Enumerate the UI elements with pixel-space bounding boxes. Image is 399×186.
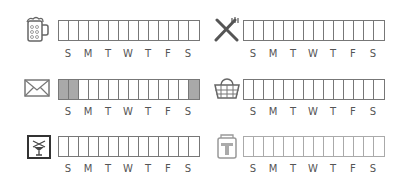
tracker-cell[interactable]	[284, 80, 294, 99]
tracker-cell[interactable]	[59, 21, 69, 40]
tracker-cell[interactable]	[119, 21, 129, 40]
tracker-cell[interactable]	[139, 21, 149, 40]
tracker-grid-beer[interactable]	[58, 20, 200, 41]
tracker-cell[interactable]	[119, 137, 129, 156]
tracker-grid-transit[interactable]	[243, 136, 385, 157]
tracker-cell[interactable]	[284, 137, 294, 156]
tracker-cell[interactable]	[344, 80, 354, 99]
tracker-cell[interactable]	[189, 80, 199, 99]
day-labels-beer: SMTWTFS	[58, 48, 198, 59]
tracker-cell[interactable]	[129, 137, 139, 156]
day-label: S	[243, 48, 263, 59]
tracker-cell[interactable]	[149, 137, 159, 156]
tracker-grid-mail[interactable]	[58, 79, 200, 100]
tracker-cell[interactable]	[69, 80, 79, 99]
tracker-cell[interactable]	[304, 80, 314, 99]
tracker-cell[interactable]	[179, 137, 189, 156]
tracker-cell[interactable]	[294, 21, 304, 40]
tracker-cell[interactable]	[59, 80, 69, 99]
tracker-cell[interactable]	[69, 21, 79, 40]
tracker-cell[interactable]	[109, 21, 119, 40]
tracker-grid-shopping[interactable]	[243, 79, 385, 100]
tracker-cell[interactable]	[374, 21, 384, 40]
day-label: S	[178, 48, 198, 59]
tracker-cell[interactable]	[139, 80, 149, 99]
tracker-cell[interactable]	[304, 21, 314, 40]
tracker-cell[interactable]	[264, 21, 274, 40]
tracker-cell[interactable]	[99, 80, 109, 99]
tracker-cell[interactable]	[244, 80, 254, 99]
tracker-cell[interactable]	[99, 21, 109, 40]
tracker-cell[interactable]	[169, 80, 179, 99]
tracker-cell[interactable]	[274, 21, 284, 40]
tracker-grid-dining[interactable]	[243, 20, 385, 41]
tracker-cell[interactable]	[59, 137, 69, 156]
tracker-cell[interactable]	[264, 80, 274, 99]
day-label: W	[118, 163, 138, 174]
tracker-cell[interactable]	[314, 21, 324, 40]
tracker-cell[interactable]	[284, 21, 294, 40]
tracker-cell[interactable]	[79, 137, 89, 156]
day-label: S	[363, 163, 383, 174]
basket-icon	[213, 75, 239, 101]
tracker-cell[interactable]	[264, 137, 274, 156]
tracker-cell[interactable]	[324, 80, 334, 99]
tracker-cell[interactable]	[294, 80, 304, 99]
tracker-cell[interactable]	[189, 21, 199, 40]
tracker-cell[interactable]	[274, 80, 284, 99]
tracker-grid-nightlife[interactable]	[58, 136, 200, 157]
tracker-cell[interactable]	[304, 137, 314, 156]
tracker-cell[interactable]	[364, 21, 374, 40]
envelope-icon	[24, 79, 50, 105]
tracker-cell[interactable]	[294, 137, 304, 156]
tracker-cell[interactable]	[179, 80, 189, 99]
tracker-cell[interactable]	[364, 80, 374, 99]
day-label: S	[363, 48, 383, 59]
tracker-cell[interactable]	[274, 137, 284, 156]
tracker-cell[interactable]	[364, 137, 374, 156]
tracker-cell[interactable]	[314, 80, 324, 99]
tracker-cell[interactable]	[179, 21, 189, 40]
tracker-cell[interactable]	[109, 80, 119, 99]
tracker-cell[interactable]	[314, 137, 324, 156]
tracker-cell[interactable]	[189, 137, 199, 156]
tracker-cell[interactable]	[354, 137, 364, 156]
tracker-cell[interactable]	[149, 80, 159, 99]
tracker-cell[interactable]	[334, 80, 344, 99]
tracker-cell[interactable]	[109, 137, 119, 156]
tracker-cell[interactable]	[169, 137, 179, 156]
tracker-cell[interactable]	[139, 137, 149, 156]
tracker-cell[interactable]	[159, 137, 169, 156]
tracker-cell[interactable]	[324, 21, 334, 40]
tracker-cell[interactable]	[119, 80, 129, 99]
tracker-cell[interactable]	[354, 80, 364, 99]
tracker-cell[interactable]	[79, 80, 89, 99]
tracker-cell[interactable]	[344, 21, 354, 40]
day-label: M	[263, 48, 283, 59]
tracker-cell[interactable]	[334, 21, 344, 40]
tracker-cell[interactable]	[254, 21, 264, 40]
tracker-cell[interactable]	[89, 137, 99, 156]
tracker-cell[interactable]	[374, 137, 384, 156]
tracker-cell[interactable]	[354, 21, 364, 40]
tracker-cell[interactable]	[344, 137, 354, 156]
tracker-cell[interactable]	[169, 21, 179, 40]
tracker-cell[interactable]	[254, 137, 264, 156]
tracker-cell[interactable]	[89, 80, 99, 99]
tracker-cell[interactable]	[149, 21, 159, 40]
tracker-cell[interactable]	[69, 137, 79, 156]
tracker-cell[interactable]	[79, 21, 89, 40]
tracker-cell[interactable]	[244, 137, 254, 156]
tracker-cell[interactable]	[99, 137, 109, 156]
tracker-cell[interactable]	[334, 137, 344, 156]
tracker-cell[interactable]	[89, 21, 99, 40]
tracker-cell[interactable]	[374, 80, 384, 99]
tracker-cell[interactable]	[244, 21, 254, 40]
tracker-cell[interactable]	[324, 137, 334, 156]
tracker-cell[interactable]	[159, 21, 169, 40]
day-label: T	[138, 106, 158, 117]
tracker-cell[interactable]	[254, 80, 264, 99]
tracker-cell[interactable]	[159, 80, 169, 99]
tracker-cell[interactable]	[129, 21, 139, 40]
tracker-cell[interactable]	[129, 80, 139, 99]
